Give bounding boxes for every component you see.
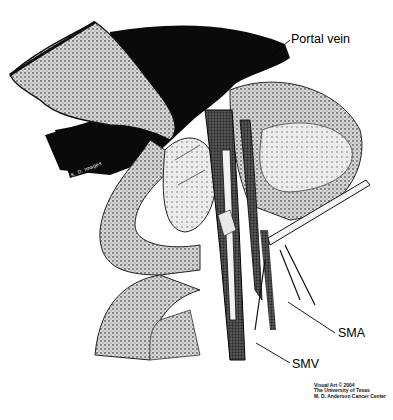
label-sma: SMA: [338, 326, 365, 340]
label-portal-vein: Portal vein: [291, 32, 350, 46]
anatomy-drawing: [0, 0, 393, 420]
label-smv: SMV: [292, 357, 319, 371]
pancreatic-head: [163, 138, 216, 232]
credit-line-3: M. D. Anderson Cancer Center: [314, 394, 386, 399]
copyright-credit: Visual Art © 2004 The University of Texa…: [314, 383, 386, 399]
illustration-canvas: Portal vein SMA SMV K. D. Images Visual …: [0, 0, 393, 420]
